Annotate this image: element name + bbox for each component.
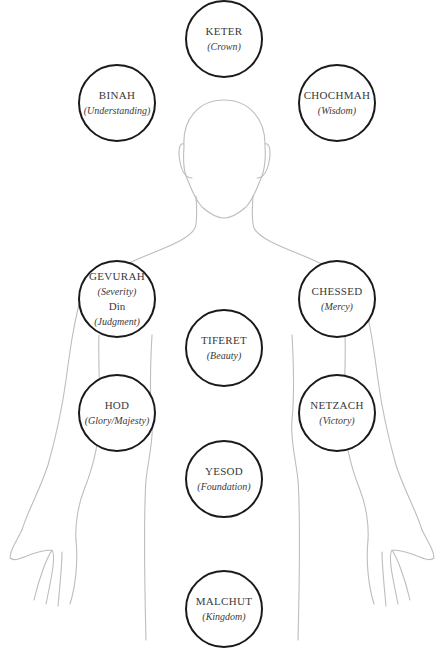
sefirah-meaning: (Severity) [98, 284, 137, 299]
left-arm-outer [22, 290, 83, 530]
sefirah-name: CHOCHMAH [304, 88, 371, 103]
left-torso-side [145, 335, 153, 640]
sefirah-meaning: (Kingdom) [202, 609, 245, 624]
sefirah-chessed: CHESSED (Mercy) [298, 260, 376, 338]
sefirah-malchut: MALCHUT (Kingdom) [185, 570, 263, 648]
sefirah-meaning: (Crown) [207, 39, 241, 54]
sefirah-name: NETZACH [310, 398, 363, 413]
sefirah-chochmah: CHOCHMAH (Wisdom) [298, 64, 376, 142]
sefirah-meaning: (Understanding) [84, 103, 151, 118]
right-torso-side [292, 335, 300, 640]
sefirah-name: TIFERET [201, 333, 247, 348]
sefirah-alt-meaning: (Judgment) [94, 314, 140, 329]
sefirah-name: CHESSED [312, 284, 363, 299]
sefirah-meaning: (Beauty) [207, 348, 241, 363]
sefirah-meaning: (Glory/Majesty) [85, 413, 149, 428]
sefirah-hod: HOD (Glory/Majesty) [78, 374, 156, 452]
sefirah-alt-name: Din [109, 299, 126, 314]
sefirah-name: GEVURAH [89, 269, 145, 284]
sefirah-gevurah: GEVURAH (Severity) Din (Judgment) [78, 260, 156, 338]
sefirah-name: HOD [105, 398, 130, 413]
sefirah-name: KETER [206, 24, 243, 39]
sefirah-meaning: (Victory) [319, 413, 354, 428]
sefirah-binah: BINAH (Understanding) [78, 64, 156, 142]
sefirah-name: MALCHUT [196, 594, 253, 609]
sefirah-name: BINAH [99, 88, 135, 103]
left-hand [10, 530, 77, 606]
sefirah-name: YESOD [205, 464, 243, 479]
sefirah-keter: KETER (Crown) [185, 0, 263, 78]
sefirah-yesod: YESOD (Foundation) [185, 440, 263, 518]
sefirah-netzach: NETZACH (Victory) [298, 374, 376, 452]
right-hand [367, 530, 434, 606]
sefirah-tiferet: TIFERET (Beauty) [185, 309, 263, 387]
sefirah-meaning: (Foundation) [197, 479, 250, 494]
sefirah-meaning: (Wisdom) [318, 103, 356, 118]
sefirah-meaning: (Mercy) [321, 299, 353, 314]
